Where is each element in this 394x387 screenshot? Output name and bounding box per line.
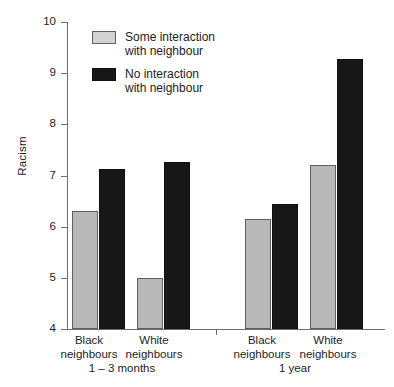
y-axis-tick-mark bbox=[61, 278, 67, 279]
chart-legend: Some interaction with neighbour No inter… bbox=[92, 30, 215, 104]
legend-item-no-interaction: No interaction with neighbour bbox=[92, 67, 215, 95]
y-axis-tick-mark bbox=[61, 124, 67, 125]
y-axis-tick-label: 5 bbox=[20, 272, 56, 284]
y-axis-tick-label: 8 bbox=[20, 119, 56, 131]
y-axis-tick-label: 4 bbox=[20, 323, 56, 335]
y-axis-tick-label: 6 bbox=[20, 221, 56, 233]
y-axis-tick-mark bbox=[61, 227, 67, 228]
y-axis-tick-label: 9 bbox=[20, 67, 56, 79]
x-axis-line bbox=[67, 329, 385, 330]
x-axis-label-group2-white: White neighbours bbox=[292, 334, 364, 361]
y-axis-tick-mark bbox=[61, 22, 67, 23]
legend-swatch-no-interaction bbox=[92, 68, 116, 81]
y-axis-tick-mark bbox=[61, 176, 67, 177]
x-axis-group-label-1: 1 – 3 months bbox=[58, 362, 186, 375]
bar-some-interaction-3 bbox=[310, 165, 336, 329]
bar-no-interaction-2 bbox=[272, 204, 298, 329]
legend-label-some-interaction: Some interaction with neighbour bbox=[125, 30, 215, 58]
bar-some-interaction-2 bbox=[245, 219, 271, 329]
x-axis-group-separator-tick bbox=[216, 330, 217, 335]
bar-chart: Racism 45678910 Black neighbours White n… bbox=[0, 0, 394, 387]
x-axis-label-group1-white: White neighbours bbox=[118, 334, 190, 361]
x-axis-label-group2-black: Black neighbours bbox=[226, 334, 298, 361]
bar-no-interaction-3 bbox=[337, 59, 363, 329]
legend-label-no-interaction: No interaction with neighbour bbox=[125, 67, 203, 95]
y-axis-tick-mark bbox=[61, 329, 67, 330]
legend-swatch-some-interaction bbox=[92, 31, 116, 44]
bar-some-interaction-0 bbox=[72, 211, 98, 329]
y-axis-tick-label: 10 bbox=[20, 16, 56, 28]
y-axis-line bbox=[67, 22, 68, 330]
bar-no-interaction-0 bbox=[99, 169, 125, 329]
y-axis-tick-label: 7 bbox=[20, 170, 56, 182]
x-axis-label-group1-black: Black neighbours bbox=[53, 334, 125, 361]
y-axis-tick-mark bbox=[61, 73, 67, 74]
legend-item-some-interaction: Some interaction with neighbour bbox=[92, 30, 215, 58]
bar-some-interaction-1 bbox=[137, 278, 163, 329]
bar-no-interaction-1 bbox=[164, 162, 190, 329]
x-axis-group-label-2: 1 year bbox=[231, 362, 359, 375]
